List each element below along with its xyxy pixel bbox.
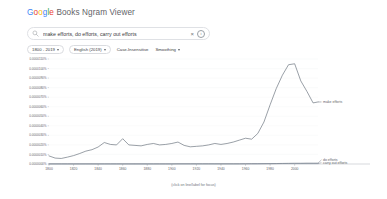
y-axis-tick-label: 0.0000070% (29, 95, 47, 99)
chevron-down-icon (57, 49, 59, 51)
chevron-down-icon (104, 49, 106, 51)
y-axis-tick-label: 0.0000040% (29, 124, 47, 128)
series-label-carry-out-efforts[interactable]: carry out efforts (323, 161, 348, 165)
y-axis-tick-label: 0.0000020% (29, 143, 47, 147)
x-axis-tick-label: 2000 (291, 167, 299, 171)
chart-footnote: (click on line/label for focus) (0, 183, 387, 187)
corpus-chip-label: English (2019) (74, 45, 102, 54)
y-axis-tick-label: 0.0000110% (29, 57, 46, 61)
x-axis-tick-label: 1880 (143, 167, 151, 171)
ngram-chart[interactable]: 0.0000110%0.0000100%0.0000090%0.0000080%… (18, 56, 376, 178)
y-axis-tick-label: 0.0000090% (29, 76, 47, 80)
series-label-make-efforts[interactable]: make efforts (323, 100, 342, 104)
date-range-chip[interactable]: 1800 - 2019 (27, 45, 64, 54)
y-axis-tick-label: 0.0000000% (29, 162, 47, 166)
search-icon (32, 30, 39, 37)
x-axis-tick-label: 1980 (266, 167, 274, 171)
case-insensitive-chip[interactable]: Case-Insensitive (116, 45, 150, 54)
x-axis-tick-label: 1960 (242, 167, 250, 171)
chevron-down-icon (178, 49, 180, 51)
corpus-chip[interactable]: English (2019) (69, 45, 111, 54)
filter-chips: 1800 - 2019 English (2019) Case-Insensit… (27, 45, 181, 54)
page-title: Google Books Ngram Viewer (27, 8, 135, 17)
case-insensitive-chip-label: Case-Insensitive (117, 45, 149, 54)
y-axis-tick-label: 0.0000030% (29, 133, 47, 137)
smoothing-chip[interactable]: Smoothing (154, 45, 181, 54)
chart-canvas[interactable]: 0.0000110%0.0000100%0.0000090%0.0000080%… (18, 56, 376, 178)
ngram-viewer-page: Google Books Ngram Viewer make efforts, … (0, 0, 387, 199)
x-axis-tick-label: 1900 (168, 167, 176, 171)
close-icon[interactable]: × (190, 31, 194, 37)
date-range-chip-label: 1800 - 2019 (32, 45, 55, 54)
x-axis-tick-label: 1860 (119, 167, 127, 171)
y-axis-tick-label: 0.0000100% (29, 67, 47, 71)
info-icon[interactable]: i (197, 30, 205, 38)
y-axis-tick-label: 0.0000060% (29, 105, 47, 109)
x-axis-tick-label: 1820 (70, 167, 78, 171)
smoothing-chip-label: Smoothing (155, 45, 176, 54)
page-title-suffix: Books Ngram Viewer (54, 8, 135, 17)
y-axis-tick-label: 0.0000050% (29, 114, 47, 118)
x-axis-tick-label: 1840 (94, 167, 102, 171)
y-axis-tick-label: 0.0000080% (29, 86, 47, 90)
x-axis-tick-label: 1920 (193, 167, 201, 171)
search-bar[interactable]: make efforts, do efforts, carry out effo… (27, 27, 210, 40)
x-axis-tick-label: 1940 (217, 167, 225, 171)
x-axis-tick-label: 1800 (45, 167, 53, 171)
search-input[interactable]: make efforts, do efforts, carry out effo… (43, 31, 190, 37)
y-axis-tick-label: 0.0000010% (29, 153, 47, 157)
